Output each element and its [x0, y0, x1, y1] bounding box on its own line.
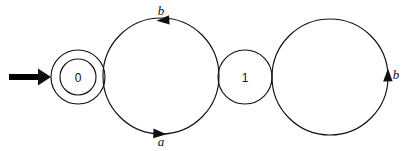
start-arrow [9, 69, 51, 86]
self-loop-path [272, 19, 388, 135]
self-loop-b-arrowhead [383, 69, 392, 82]
automaton-diagram: 0 1 b a b [0, 0, 404, 151]
edge-label-b-top: b [158, 3, 165, 18]
automaton-canvas: 0 1 b a b [0, 0, 404, 151]
state-node-0[interactable]: 0 [51, 50, 105, 104]
state-0-label: 0 [75, 71, 82, 85]
transition-self-loop-q1[interactable] [272, 19, 393, 135]
edge-label-b-self-loop: b [393, 67, 400, 82]
state-1-label: 1 [242, 71, 249, 85]
state-node-1[interactable]: 1 [218, 50, 272, 104]
start-arrow-head [38, 69, 51, 86]
edge-label-a-bottom: a [158, 134, 165, 149]
transition-loop-path [103, 18, 219, 134]
transition-pair-q0-q1[interactable] [103, 15, 219, 138]
